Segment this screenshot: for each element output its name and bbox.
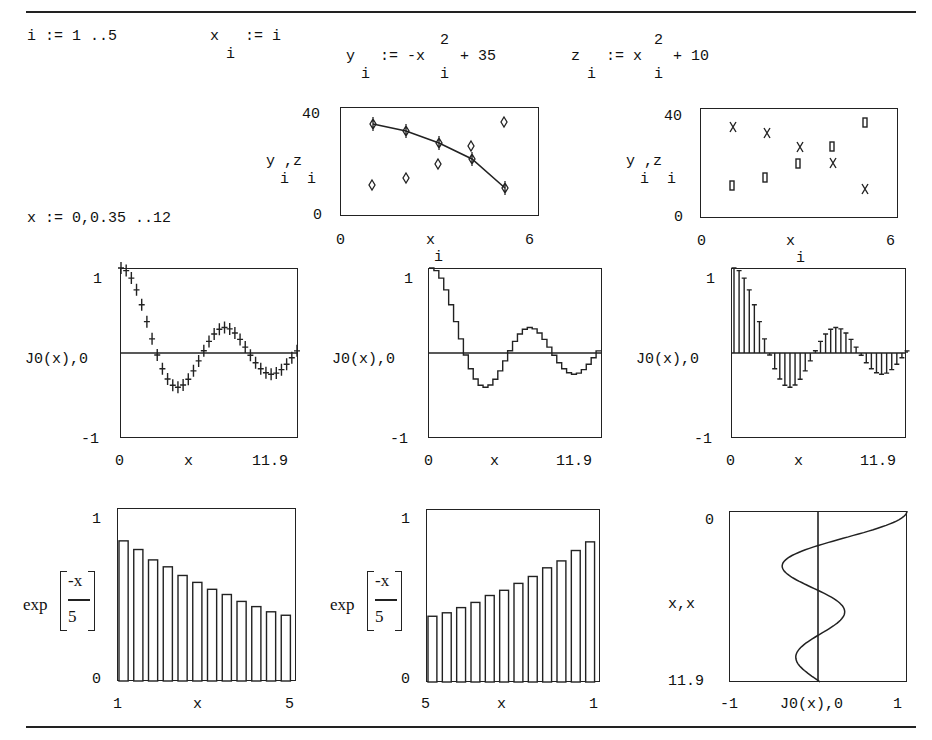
bottom-rule: [26, 726, 916, 728]
bar: [134, 550, 143, 681]
bar: [485, 596, 494, 683]
bar: [471, 602, 480, 682]
y-def-assign: := -x: [380, 49, 425, 64]
x-def-lhs: x: [210, 29, 219, 44]
bar: [237, 601, 246, 681]
bar: [208, 589, 217, 681]
left-bracket: [60, 571, 67, 631]
y-axis-label: J0(x),0: [636, 352, 699, 367]
y-axis-label-subs: i i: [640, 172, 676, 187]
bar: [267, 612, 276, 681]
x-max-label: 1: [893, 697, 902, 712]
x-axis-label: x: [497, 697, 506, 712]
y-max-label: 1: [401, 512, 410, 527]
y-axis-label: y ,z: [626, 154, 662, 169]
j0-series: [429, 268, 601, 387]
y-def-sub2: i: [440, 67, 449, 82]
x-def-rhs: := i: [245, 29, 281, 44]
x-max-label: 5: [285, 697, 294, 712]
plot-area: [426, 509, 600, 682]
exp-denominator: 5: [375, 608, 384, 625]
plot-area: [340, 107, 539, 216]
bar: [514, 583, 523, 682]
j0-series: [732, 268, 910, 387]
y-axis-label-subs: i i: [280, 172, 316, 187]
bar: [586, 542, 595, 682]
bar: [193, 582, 202, 681]
x-max-label: 11.9: [860, 454, 896, 469]
y-min-label: 0: [313, 208, 322, 223]
y-max-label: 1: [92, 512, 101, 527]
bar: [500, 590, 509, 682]
x-min-label: 0: [336, 233, 345, 248]
plot-area: [428, 268, 602, 438]
bar: [442, 613, 451, 682]
bar: [178, 575, 187, 681]
y-max-label: 40: [664, 109, 682, 124]
bar: [163, 567, 172, 681]
bar: [119, 541, 128, 681]
bar: [149, 560, 158, 681]
x-min-label: 0: [697, 234, 706, 249]
y-axis-label: J0(x),0: [25, 352, 88, 367]
left-bracket: [367, 571, 374, 631]
x-axis-label: x: [184, 454, 193, 469]
y-min-label: 0: [674, 210, 683, 225]
x-min-label: 5: [421, 697, 430, 712]
bar: [281, 615, 290, 681]
y-max-label: 1: [706, 272, 715, 287]
y-def-lhs: y: [346, 49, 355, 64]
j0-curve: [782, 511, 907, 682]
plot-area: [731, 268, 906, 438]
z-series-box-markers: [730, 118, 867, 190]
right-bracket: [395, 571, 402, 631]
bar: [571, 551, 580, 682]
x-axis-label: x: [426, 233, 435, 248]
x-axis-label: x: [794, 454, 803, 469]
bar: [543, 568, 552, 682]
x-min-label: -1: [720, 697, 738, 712]
x-max-label: 11.9: [252, 454, 288, 469]
y-min-label: -1: [81, 432, 99, 447]
y-top-label: 0: [705, 513, 714, 528]
plot-area: [700, 108, 898, 218]
x-axis-label-sub: i: [434, 250, 443, 265]
y-max-label: 1: [404, 272, 413, 287]
x-max-label: 11.9: [556, 454, 592, 469]
bar: [528, 576, 537, 682]
fraction-bar: [375, 599, 397, 601]
bar: [557, 561, 566, 682]
y-min-label: -1: [694, 432, 712, 447]
y-def-tail: + 35: [460, 49, 496, 64]
fraction-bar: [68, 599, 90, 601]
plot-area: [117, 508, 296, 681]
y-min-label: 0: [92, 672, 101, 687]
x-range-definition: x := 0,0.35 ..12: [27, 211, 171, 226]
exp-numerator: -x: [68, 572, 82, 589]
x-min-label: 0: [424, 454, 433, 469]
exp-numerator: -x: [375, 572, 389, 589]
plot-area: [729, 511, 907, 682]
z-def-sub: i: [587, 67, 596, 82]
y-def-sub: i: [361, 67, 370, 82]
x-axis-label: x: [490, 454, 499, 469]
exp-fn: exp: [23, 596, 48, 613]
z-def-sup: 2: [654, 33, 663, 48]
x-axis-label: x: [786, 234, 795, 249]
j0-series: [118, 262, 300, 393]
x-min-label: 0: [726, 454, 735, 469]
x-axis-label: x: [193, 697, 202, 712]
z-def-lhs: z: [571, 49, 580, 64]
y-axis-label: y ,z: [266, 154, 302, 169]
x-min-label: 1: [113, 697, 122, 712]
right-bracket: [88, 571, 95, 631]
z-def-assign: := x: [606, 49, 642, 64]
bar-series: [119, 541, 290, 681]
top-rule: [26, 11, 916, 13]
plot-area: [120, 268, 298, 438]
y-series-line: [373, 124, 505, 188]
exp-fn: exp: [330, 596, 355, 613]
y-series-markers: [370, 117, 508, 195]
y-max-label: 40: [302, 107, 320, 122]
x-axis-label: J0(x),0: [780, 697, 843, 712]
